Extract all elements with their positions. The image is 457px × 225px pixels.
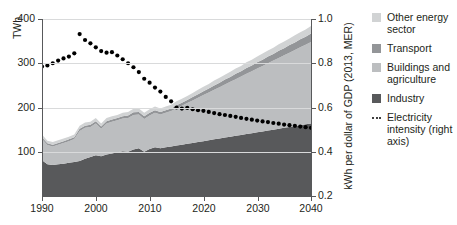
data-point	[67, 55, 71, 59]
data-point	[223, 113, 227, 117]
legend-item-transport[interactable]: Transport	[372, 42, 457, 54]
data-point	[83, 38, 87, 42]
data-point	[277, 122, 281, 126]
data-point	[88, 41, 92, 45]
data-point	[282, 122, 286, 126]
data-point	[234, 115, 238, 119]
data-point	[115, 53, 119, 57]
data-point	[169, 99, 173, 103]
legend-item-electricity-intensity[interactable]: Electricity intensity (right axis)	[372, 111, 457, 147]
x-label-2030: 2030	[246, 203, 269, 214]
legend-label-other-energy-sector: Other energy sector	[387, 11, 457, 35]
data-point	[293, 124, 297, 128]
y-tick-right-0.2	[312, 196, 316, 197]
y-tick-left-100	[38, 152, 42, 153]
chart-legend: Other energy sector Transport Buildings …	[372, 11, 457, 154]
gridline-400	[42, 19, 311, 20]
x-tick-1990	[42, 197, 43, 201]
y-label-right-0.6: 0.6	[318, 102, 333, 113]
x-label-2020: 2020	[192, 203, 215, 214]
data-point	[255, 118, 259, 122]
y-label-left-100: 100	[17, 146, 35, 157]
legend-dots-icon-electricity-intensity	[372, 113, 381, 122]
legend-swatch-industry	[372, 94, 381, 103]
legend-label-transport: Transport	[387, 42, 432, 54]
legend-swatch-other-energy-sector	[372, 13, 381, 22]
data-point	[78, 32, 82, 36]
data-point	[217, 112, 221, 116]
legend-label-electricity-intensity: Electricity intensity (right axis)	[387, 111, 457, 147]
x-label-2000: 2000	[84, 203, 107, 214]
data-point	[207, 110, 211, 114]
data-point	[137, 70, 141, 74]
data-point	[260, 119, 264, 123]
data-point	[153, 85, 157, 89]
data-point	[121, 57, 125, 61]
x-label-2040: 2040	[299, 203, 322, 214]
x-tick-2010	[150, 197, 151, 201]
data-point	[201, 109, 205, 113]
data-point	[250, 118, 254, 122]
x-label-2010: 2010	[138, 203, 161, 214]
legend-swatch-transport	[372, 44, 381, 53]
data-point	[287, 123, 291, 127]
gridline-200	[42, 108, 311, 109]
legend-label-buildings-and-agriculture: Buildings and agriculture	[387, 61, 457, 85]
legend-swatch-buildings-and-agriculture	[372, 63, 381, 72]
chart-figure: 400 300 200 100 1.0 0.8 0.6 0.4 0.2 1990…	[0, 0, 457, 225]
x-axis-labels: 1990 2000 2010 2020 2030 2040	[0, 203, 340, 217]
data-point	[61, 56, 65, 60]
y-label-right-1.0: 1.0	[318, 13, 333, 24]
y-tick-left-300	[38, 63, 42, 64]
y-label-right-0.4: 0.4	[318, 146, 333, 157]
data-point	[142, 77, 146, 81]
data-point	[104, 51, 108, 55]
legend-label-industry: Industry	[387, 92, 424, 104]
data-point	[158, 89, 162, 93]
data-point	[271, 121, 275, 125]
x-label-1990: 1990	[30, 203, 53, 214]
data-point	[72, 51, 76, 55]
data-point	[298, 124, 302, 128]
gridline-300	[42, 63, 311, 64]
y-axis-left-line	[42, 19, 43, 197]
y-tick-right-0.4	[312, 152, 316, 153]
legend-item-other-energy-sector[interactable]: Other energy sector	[372, 11, 457, 35]
cropped-title-strip	[100, 0, 320, 8]
x-tick-2020	[204, 197, 205, 201]
y-label-right-0.2: 0.2	[318, 190, 333, 201]
legend-item-industry[interactable]: Industry	[372, 92, 457, 104]
data-point	[94, 45, 98, 49]
y-tick-right-1.0	[312, 19, 316, 20]
y-axis-left-title: TWh	[11, 5, 23, 51]
data-point	[228, 114, 232, 118]
y-label-left-300: 300	[17, 57, 35, 68]
x-tick-2000	[96, 197, 97, 201]
data-point	[164, 95, 168, 99]
y-label-left-200: 200	[17, 102, 35, 113]
x-tick-2040	[311, 197, 312, 201]
data-point	[239, 116, 243, 120]
data-point	[304, 125, 308, 129]
legend-item-buildings-and-agriculture[interactable]: Buildings and agriculture	[372, 61, 457, 85]
y-tick-right-0.8	[312, 63, 316, 64]
data-point	[148, 81, 152, 85]
data-point	[110, 50, 114, 54]
data-point	[244, 117, 248, 121]
data-point	[266, 120, 270, 124]
data-point	[131, 65, 135, 69]
data-point	[99, 49, 103, 53]
y-tick-right-0.6	[312, 108, 316, 109]
x-axis-line	[42, 196, 312, 197]
data-point	[212, 111, 216, 115]
gridline-100	[42, 152, 311, 153]
y-tick-left-200	[38, 108, 42, 109]
y-axis-right-title: kWh per dollar of GDP (2013, MER)	[342, 11, 354, 201]
x-tick-2030	[258, 197, 259, 201]
y-label-right-0.8: 0.8	[318, 57, 333, 68]
y-tick-left-400	[38, 19, 42, 20]
